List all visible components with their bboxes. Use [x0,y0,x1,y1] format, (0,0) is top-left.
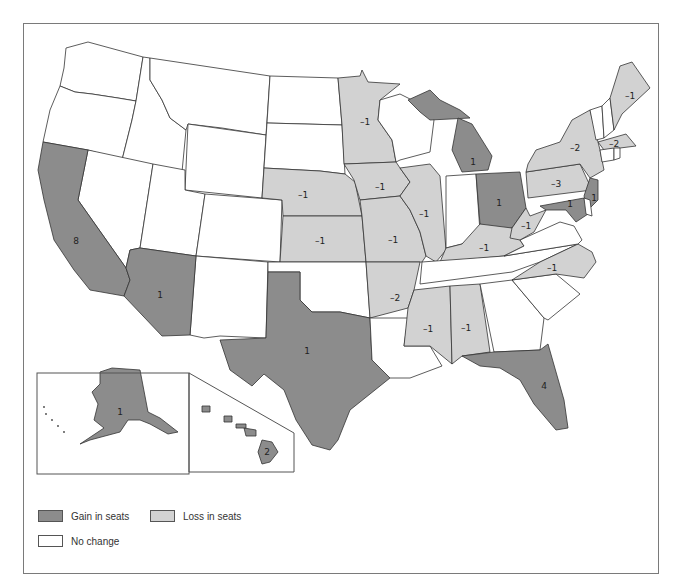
state-rhode-island [614,148,620,160]
state-colorado [196,194,282,262]
state-change-label: –2 [390,293,400,303]
state-change-label: –1 [419,209,429,219]
state-change-label: –1 [423,324,433,334]
state-change-label: –3 [551,179,561,189]
state-change-label: –2 [609,139,619,149]
state-north-dakota [267,76,342,125]
state-change-label: 1 [157,290,163,300]
state-wyoming [185,124,266,198]
state-change-label: 1 [117,407,123,417]
gain-swatch [38,510,63,522]
state-change-label: 1 [470,157,476,167]
state-change-label: –1 [375,182,385,192]
state-change-label: 1 [567,199,573,209]
state-change-label: –1 [521,221,531,231]
state-change-label: –1 [360,117,370,127]
legend-none-label: No change [71,536,119,547]
state-florida [462,344,568,430]
aleutian-island [43,406,45,408]
state-change-label: –1 [625,91,635,101]
state-change-label: 2 [264,447,270,457]
state-alaska [80,368,178,444]
state-change-label: –1 [315,236,325,246]
state-change-label: 1 [591,193,597,203]
state-change-label: –1 [388,235,398,245]
loss-swatch [150,510,175,522]
aleutian-island [51,419,53,421]
state-maryland [540,198,588,222]
state-south-dakota [264,123,345,174]
state-change-label: –1 [547,263,557,273]
aleutian-island [63,431,65,433]
state-change-label: –1 [298,190,308,200]
state-change-label: –1 [461,323,471,333]
state-change-label: –1 [479,243,489,253]
legend-gain: Gain in seats [38,510,129,522]
state-change-label: 8 [73,236,79,246]
aleutian-island [45,413,47,415]
legend-gain-label: Gain in seats [71,511,129,522]
us-map: 8114111112–1–1–1–1–1–2–1–1–1–1–1–1–3–2–2… [0,0,686,581]
legend-loss-label: Loss in seats [183,511,241,522]
state-change-label: 1 [304,346,310,356]
legend-loss: Loss in seats [150,510,241,522]
state-hawaii-oahu [224,416,232,422]
state-change-label: –2 [570,143,580,153]
state-hawaii-maui [244,428,256,436]
state-hawaii-kauai [202,406,210,412]
state-change-label: 1 [496,198,502,208]
aleutian-island [57,425,59,427]
legend-none: No change [38,535,119,547]
state-connecticut [600,148,614,162]
state-new-mexico [190,256,268,338]
state-hawaii-molokai [236,424,246,428]
hawaii-inset-box [189,373,294,472]
state-change-label: 4 [541,381,547,391]
states-layer [38,42,650,464]
none-swatch [38,535,63,547]
